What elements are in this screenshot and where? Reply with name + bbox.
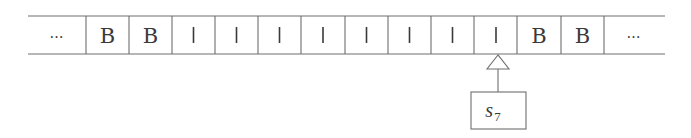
state-box: s7	[471, 92, 526, 129]
ellipsis-right: …	[627, 25, 642, 41]
tape-cell-0: …	[50, 25, 65, 41]
state-subscript: 7	[494, 109, 501, 124]
blank-symbol: B	[575, 24, 590, 48]
turing-tape-diagram: … B B B B … s7	[0, 0, 691, 138]
tape-cell-1: B	[100, 24, 115, 48]
head-pointer	[487, 55, 509, 92]
tape-cell-2: B	[143, 24, 158, 48]
ellipsis-left: …	[50, 25, 65, 41]
tape-cell-dividers	[86, 16, 604, 54]
blank-symbol: B	[531, 24, 546, 48]
state-letter: s	[485, 99, 493, 121]
blank-symbol: B	[143, 24, 158, 48]
blank-symbol: B	[100, 24, 115, 48]
tape-cell-13: …	[627, 25, 642, 41]
tape-cell-12: B	[575, 24, 590, 48]
tape-cell-11: B	[531, 24, 546, 48]
hollow-triangle-arrow-icon	[487, 55, 509, 69]
